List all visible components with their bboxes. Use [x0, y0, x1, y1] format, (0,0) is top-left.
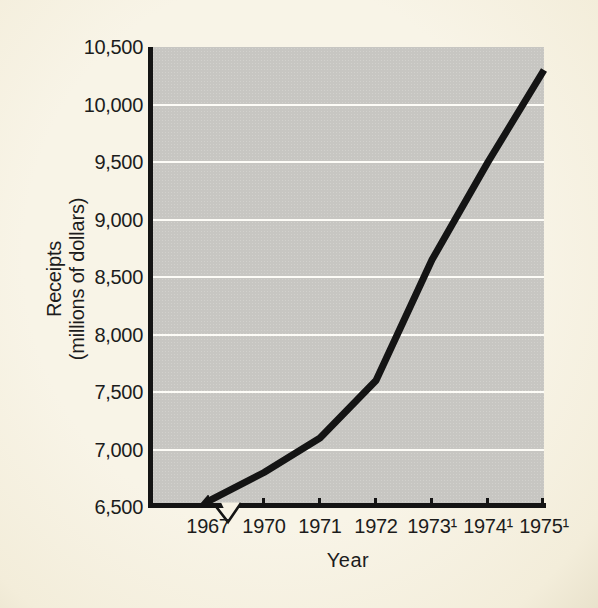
y-tick-label: 7,500 — [38, 381, 143, 403]
x-axis-title: Year — [298, 549, 398, 572]
y-axis-line — [148, 47, 153, 508]
x-tick-label: 1975¹ — [502, 515, 586, 537]
y-tick-label: 9,500 — [38, 151, 143, 173]
y-tick-label: 8,000 — [38, 324, 143, 346]
receipts-line-canvas — [152, 47, 544, 507]
receipts-line — [208, 70, 544, 501]
figure: Receipts (millions of dollars) 10,500 10… — [0, 0, 598, 608]
y-tick-label: 10,500 — [38, 36, 143, 58]
y-tick-label: 8,500 — [38, 266, 143, 288]
y-tick-label: 9,000 — [38, 209, 143, 231]
y-tick-label: 10,000 — [38, 94, 143, 116]
y-tick-label: 7,000 — [38, 439, 143, 461]
plot-area — [152, 47, 544, 507]
y-tick-label: 6,500 — [38, 496, 143, 518]
